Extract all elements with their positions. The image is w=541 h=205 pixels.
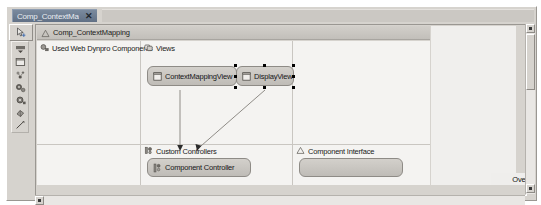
chevron-up-icon: [529, 27, 532, 30]
vertical-scroll-thumb[interactable]: [526, 34, 535, 90]
section-used-components: Used Web Dynpro Components: [40, 43, 153, 54]
scroll-up-button[interactable]: [526, 24, 535, 33]
section-label-views: Views: [156, 44, 175, 53]
component-interface-icon: [15, 95, 26, 105]
diagram-surface[interactable]: Used Web Dynpro Components Views: [37, 41, 430, 185]
section-label-component-interface: Component Interface: [308, 147, 374, 156]
views-icon: [144, 43, 153, 54]
section-component-interface: Component Interface: [296, 146, 374, 157]
view-icon: [153, 67, 162, 85]
diagram-header: Comp_ContextMapping: [37, 26, 430, 40]
component-controller-icon: [15, 83, 26, 93]
scroll-down-button[interactable]: [526, 184, 535, 193]
used-component-tool[interactable]: [13, 107, 27, 119]
node-label-component-controller: Component Controller: [165, 163, 234, 172]
scroll-left-button[interactable]: [35, 196, 44, 205]
close-icon[interactable]: ✕: [85, 12, 93, 21]
selection-handle-s[interactable]: [263, 86, 266, 89]
row-separator-1: [37, 144, 430, 145]
diagram-canvas[interactable]: Comp_ContextMapping: [35, 24, 527, 196]
section-label-used-components: Used Web Dynpro Components: [52, 44, 153, 53]
overview-bar: Overview: [491, 173, 527, 185]
horizontal-scrollbar[interactable]: [35, 195, 525, 205]
custom-controller-icon: [15, 70, 26, 80]
controller-icon: [144, 146, 153, 157]
view-icon: [242, 67, 251, 85]
marquee-icon: [15, 45, 26, 54]
tab-comp-contextmapping[interactable]: Comp_ContextMapping ✕: [12, 9, 97, 23]
marquee-tool[interactable]: [13, 44, 27, 56]
tab-strip-empty-area: [102, 9, 534, 23]
controller-node-icon: [153, 159, 162, 177]
node-context-mapping-view[interactable]: ContextMappingView: [147, 66, 237, 86]
palette-tool-list: [11, 41, 29, 133]
selection-handle-e[interactable]: [292, 75, 295, 78]
chevron-left-icon: [38, 199, 41, 202]
selection-handle-sw[interactable]: [234, 86, 237, 89]
selection-handle-nw[interactable]: [234, 64, 237, 67]
select-pointer-icon: [16, 24, 27, 42]
used-component-icon: [15, 108, 26, 118]
custom-controller-tool[interactable]: [13, 69, 27, 81]
component-icon: [40, 43, 49, 54]
column-separator-1: [140, 41, 141, 185]
tool-palette: [9, 24, 33, 136]
node-label-context-mapping-view: ContextMappingView: [165, 72, 232, 81]
canvas-grid-region: [431, 26, 516, 185]
component-controller-tool[interactable]: [13, 82, 27, 94]
selection-handle-se[interactable]: [292, 86, 295, 89]
view-shape-icon: [15, 57, 26, 67]
node-display-view-wrapper: DisplayView: [233, 63, 297, 89]
component-interface-tool[interactable]: [13, 94, 27, 106]
interface-icon: [296, 146, 305, 157]
vertical-scrollbar[interactable]: [525, 24, 535, 194]
node-display-view[interactable]: DisplayView: [236, 66, 294, 86]
selection-handle-n[interactable]: [263, 64, 266, 67]
editor-body: Comp_ContextMapping: [8, 22, 535, 199]
section-label-custom-controllers: Custom Controllers: [156, 147, 217, 156]
chevron-down-icon: [529, 187, 532, 190]
node-label-display-view: DisplayView: [254, 72, 293, 81]
section-custom-controllers: Custom Controllers: [144, 146, 217, 157]
diagram-title: Comp_ContextMapping: [53, 28, 130, 37]
section-views: Views: [144, 43, 175, 54]
view-shape-tool[interactable]: [13, 57, 27, 69]
node-component-controller[interactable]: Component Controller: [147, 158, 251, 177]
editor-tab-strip: Comp_ContextMapping ✕: [7, 7, 536, 22]
select-pointer-tool[interactable]: [9, 24, 33, 41]
node-interface-placeholder[interactable]: [299, 158, 403, 177]
selection-handle-ne[interactable]: [292, 64, 295, 67]
app-root: Comp_ContextMapping ✕: [0, 0, 541, 205]
diagram-icon: [41, 24, 50, 42]
editor-window: Comp_ContextMapping ✕: [6, 6, 537, 201]
selection-handle-w[interactable]: [234, 75, 237, 78]
connection-icon: [15, 120, 26, 130]
connection-tool[interactable]: [13, 119, 27, 131]
